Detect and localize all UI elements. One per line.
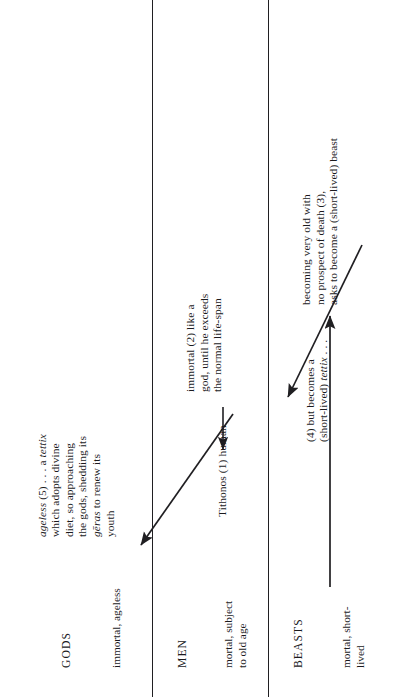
category-label-men: MEN bbox=[176, 639, 189, 668]
note-4-ellipsis: . . . bbox=[317, 340, 329, 358]
note-5-term-ageless: ageless bbox=[36, 503, 48, 537]
note-very-old-3: becoming very old with no prospect of de… bbox=[300, 5, 341, 305]
note-5-ellipsis: . . . a bbox=[36, 457, 48, 486]
note-5-term-tettix: tettix bbox=[36, 434, 48, 457]
note-5-term-geras: gēras bbox=[90, 511, 102, 537]
category-label-beasts: BEASTS bbox=[292, 618, 305, 668]
figure-viewport: ageless (5) . . . a tettix which adopts … bbox=[0, 0, 413, 697]
note-4-term-tettix: tettix bbox=[317, 357, 329, 380]
note-5-body-a: which adopts divine diet, so approaching… bbox=[49, 436, 88, 537]
state-label-men: mortal, subject to old age bbox=[222, 468, 249, 668]
note-5-step: (5) bbox=[36, 486, 48, 503]
note-immortal-2: immortal (2) like a god, until he exceed… bbox=[184, 162, 225, 392]
state-label-gods: immortal, ageless bbox=[110, 468, 124, 668]
category-label-gods: GODS bbox=[60, 632, 73, 668]
tithonos-diagram: ageless (5) . . . a tettix which adopts … bbox=[0, 0, 413, 697]
state-label-beasts: mortal, short- lived bbox=[340, 468, 367, 668]
note-3-text: becoming very old with no prospect of de… bbox=[300, 138, 339, 305]
note-ageless-5: ageless (5) . . . a tettix which adopts … bbox=[22, 287, 117, 537]
